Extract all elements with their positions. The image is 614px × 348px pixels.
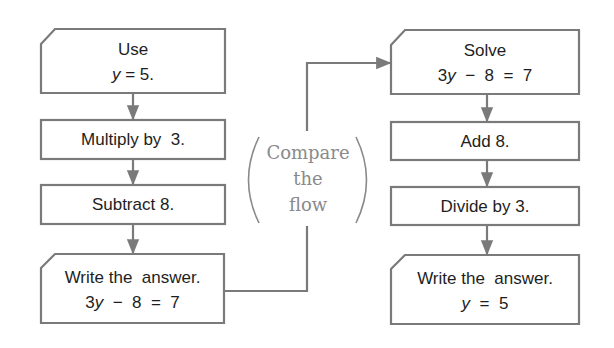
annotation-line2: the — [258, 166, 358, 192]
coefficient: 3 — [85, 293, 94, 312]
left-start-line2: y = 5. — [112, 62, 154, 87]
connector-top-arrow-icon — [307, 63, 390, 131]
left-start-line1: Use — [118, 37, 148, 62]
left-multiply-text: Multiply by 3. — [41, 120, 225, 159]
right-add-text: Add 8. — [391, 122, 579, 160]
right-start-text: Solve 3y − 8 = 7 — [391, 32, 579, 94]
equation-rest: − 8 = 7 — [456, 66, 533, 85]
left-end-text: Write the answer. 3y − 8 = 7 — [41, 256, 224, 323]
right-end-text: Write the answer. y = 5 — [391, 257, 579, 324]
left-end-line2: 3y − 8 = 7 — [85, 290, 180, 315]
right-start-line1: Solve — [464, 38, 507, 63]
variable-y: y — [95, 293, 104, 312]
left-multiply-label: Multiply by 3. — [81, 127, 185, 152]
right-divide-text: Divide by 3. — [391, 187, 579, 225]
connector-bottom — [224, 226, 307, 291]
compare-the-flow-annotation: Compare the flow — [258, 140, 358, 218]
right-start-line2: 3y − 8 = 7 — [438, 63, 533, 88]
left-subtract-text: Subtract 8. — [41, 185, 225, 224]
annotation-line1: Compare — [258, 140, 358, 166]
variable-y: y — [447, 66, 456, 85]
annotation-line3: flow — [258, 192, 358, 218]
left-end-line1: Write the answer. — [65, 265, 201, 290]
variable-y: y — [462, 294, 471, 313]
equation-rest: = 5. — [120, 65, 154, 84]
coefficient: 3 — [438, 66, 447, 85]
left-start-text: Use y = 5. — [41, 31, 225, 93]
right-end-line1: Write the answer. — [417, 266, 553, 291]
equation-rest: − 8 = 7 — [103, 293, 180, 312]
right-end-line2: y = 5 — [462, 291, 509, 316]
right-add-label: Add 8. — [460, 129, 509, 154]
left-subtract-label: Subtract 8. — [92, 192, 174, 217]
right-divide-label: Divide by 3. — [441, 194, 530, 219]
equation-rest: = 5 — [470, 294, 508, 313]
